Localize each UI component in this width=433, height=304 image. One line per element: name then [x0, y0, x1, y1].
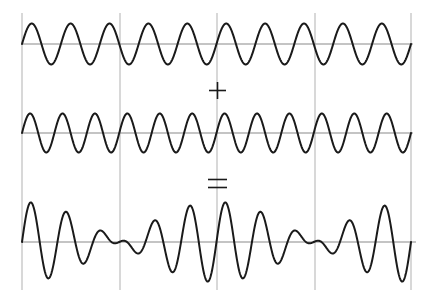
- wave-superposition-diagram: + =: [0, 0, 433, 304]
- plus-operator: +: [0, 0, 226, 99]
- diagram-canvas: + =: [0, 0, 433, 304]
- horizontal-baselines: [22, 44, 416, 242]
